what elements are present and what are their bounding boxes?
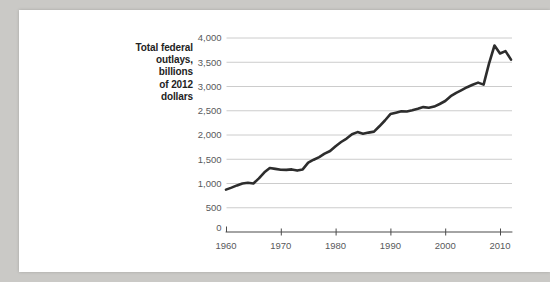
outlays-data-line	[226, 46, 511, 190]
x-tick-label: 1970	[270, 240, 291, 251]
x-tick-label: 1980	[325, 240, 346, 251]
y-tick-label: 500	[206, 202, 222, 213]
y-tick-label: 0	[216, 222, 221, 233]
x-tick-label: 1960	[215, 240, 236, 251]
page-background: Total federal outlays, billions of 2012 …	[0, 0, 550, 282]
y-tick-label: 2,000	[198, 129, 222, 140]
y-tick-label: 1,000	[198, 178, 222, 189]
y-tick-label: 1,500	[198, 154, 222, 165]
y-tick-label: 3,000	[198, 81, 222, 92]
y-tick-label: 2,500	[198, 105, 222, 116]
y-tick-label: 4,000	[198, 32, 222, 43]
y-tick-label: 3,500	[198, 57, 222, 68]
x-tick-label: 2010	[489, 240, 510, 251]
x-tick-label: 2000	[435, 240, 456, 251]
x-tick-label: 1990	[380, 240, 401, 251]
outlays-line-chart: 05001,0001,5002,0002,5003,0003,5004,0001…	[0, 0, 550, 282]
